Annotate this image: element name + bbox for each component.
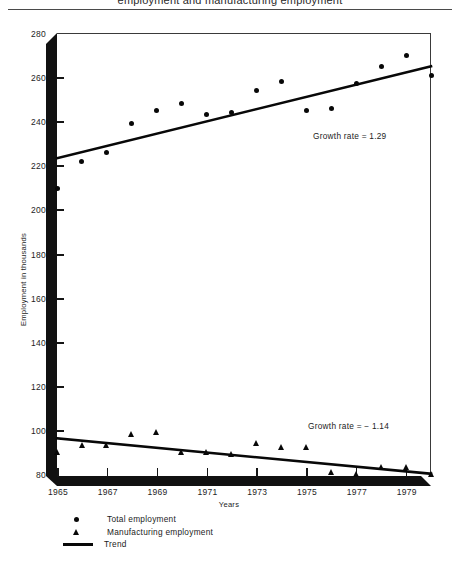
data-point-total-employment [429,73,434,78]
legend-item-total-employment: Total employment [66,513,326,526]
data-point-manufacturing-employment [403,464,409,470]
data-point-total-employment [404,53,409,58]
y-axis-title: Employment in thousands [19,210,28,350]
data-point-total-employment [329,106,334,111]
data-point-manufacturing-employment [128,431,134,437]
data-point-manufacturing-employment [378,464,384,470]
x-tick-label: 1975 [287,487,327,497]
triangle-marker-icon [66,526,88,539]
plot-area [57,33,431,476]
x-tick-mark [107,468,109,477]
legend-item-trend: Trend [66,538,326,551]
y-tick-label: 100 [16,426,46,436]
legend-label: Manufacturing employment [107,527,213,537]
data-point-manufacturing-employment [103,442,109,448]
data-point-total-employment [304,108,309,113]
x-axis-bar [46,476,431,486]
annotation-manufacturing-growth-rate: Growth rate = − 1.14 [308,421,389,431]
x-tick-label: 1967 [88,487,128,497]
annotation-total-growth-rate: Growth rate = 1.29 [313,131,386,141]
circle-marker-icon [66,513,88,526]
x-tick-label: 1969 [138,487,178,497]
x-tick-mark [207,468,209,477]
y-tick-label: 280 [16,29,46,39]
x-tick-label: 1971 [188,487,228,497]
y-tick-mark [57,77,64,79]
legend-item-manufacturing-employment: Manufacturing employment [66,526,326,539]
x-axis-bevel-left-icon [46,476,57,486]
x-axis-title: Years [199,500,259,509]
data-point-manufacturing-employment [278,444,284,450]
data-point-manufacturing-employment [353,471,359,477]
data-point-total-employment [55,186,60,191]
y-axis-bar [46,33,57,476]
x-tick-mark [57,468,59,477]
data-point-manufacturing-employment [79,442,85,448]
y-tick-label: 80 [16,470,46,480]
y-tick-mark [57,121,64,123]
data-point-total-employment [379,64,384,69]
y-tick-mark [57,342,64,344]
data-point-total-employment [254,88,259,93]
data-point-manufacturing-employment [228,451,234,457]
chart-figure: employment and manufacturing employment … [0,0,460,572]
x-tick-label: 1965 [38,487,78,497]
header-divider [8,9,452,10]
y-tick-label: 260 [16,73,46,83]
data-point-manufacturing-employment [253,440,259,446]
y-tick-label: 120 [16,382,46,392]
line-marker-icon [66,538,88,551]
x-tick-mark [256,468,258,477]
y-tick-mark [57,209,64,211]
y-tick-mark [57,386,64,388]
y-tick-mark [57,254,64,256]
data-point-manufacturing-employment [178,449,184,455]
data-point-manufacturing-employment [328,469,334,475]
x-tick-label: 1977 [337,487,377,497]
x-tick-mark [306,468,308,477]
data-point-manufacturing-employment [54,449,60,455]
y-tick-mark [57,430,64,432]
legend-label: Trend [104,539,127,549]
y-axis-bevel-icon [46,33,57,44]
x-axis-bevel-right-icon [421,476,431,486]
legend: Total employment Manufacturing employmen… [66,513,326,551]
clipped-figure-header: employment and manufacturing employment [8,0,452,8]
y-tick-label: 240 [16,117,46,127]
x-tick-label: 1973 [237,487,277,497]
data-point-manufacturing-employment [203,449,209,455]
data-point-manufacturing-employment [153,429,159,435]
y-tick-label: 220 [16,161,46,171]
x-tick-mark [157,468,159,477]
legend-label: Total employment [107,514,176,524]
y-tick-mark [57,298,64,300]
data-point-manufacturing-employment [303,444,309,450]
data-point-manufacturing-employment [428,471,434,477]
x-tick-label: 1979 [387,487,427,497]
y-tick-mark [57,165,64,167]
